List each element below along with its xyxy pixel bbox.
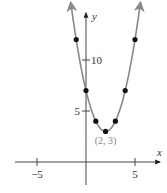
vertex-label: (2, 3) [95,135,117,147]
parabola-path [71,3,141,132]
data-point [123,88,128,93]
x-axis-label: x [156,146,162,158]
data-point [74,37,79,42]
y-axis-label: y [91,10,97,22]
x-tick-label: 5 [132,168,138,180]
data-point [83,88,88,93]
data-point [113,119,118,124]
data-point [93,119,98,124]
parabola-curve [71,3,141,132]
y-tick-label: 10 [91,54,103,66]
x-tick-label: −5 [31,168,43,180]
axis-labels: −55510xy(2, 3) [31,10,162,180]
parabola-chart: −55510xy(2, 3) [0,0,167,193]
data-point [132,37,137,42]
y-tick-label: 5 [75,105,81,117]
data-points [74,37,138,134]
data-point [103,129,108,134]
